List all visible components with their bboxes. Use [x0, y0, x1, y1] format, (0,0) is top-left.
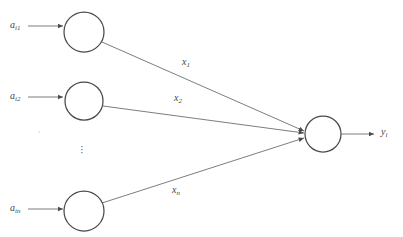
diagram-canvas [0, 0, 403, 237]
input-node-3 [64, 191, 104, 231]
weight-label-2: x2 [174, 93, 182, 103]
weight-edge-1 [102, 42, 304, 131]
weight-edge-3 [102, 138, 304, 203]
input-label-2-sub: i2 [15, 95, 20, 103]
weight-label-3: xn [172, 185, 180, 195]
output-label: yi [381, 127, 387, 137]
scan-speck [38, 131, 40, 133]
neuron-diagram: ai1 ai2 ain x1 x2 xn yi · · · [0, 0, 403, 237]
input-node-1 [64, 12, 104, 52]
output-node [305, 116, 341, 152]
weight-label-1-sub: 1 [186, 61, 190, 69]
ellipsis-dot-3: · [80, 151, 84, 154]
input-label-3-sub: in [15, 207, 20, 215]
input-label-1: ai1 [10, 20, 20, 30]
vertical-ellipsis: · · · [80, 145, 84, 154]
weight-label-1: x1 [182, 57, 190, 67]
input-label-3: ain [10, 203, 20, 213]
weight-edge-2 [103, 106, 304, 133]
weight-label-2-sub: 2 [178, 97, 182, 105]
input-label-2: ai2 [10, 91, 20, 101]
input-label-1-sub: i1 [15, 24, 20, 32]
input-node-2 [65, 82, 103, 120]
weight-label-3-sub: n [176, 189, 180, 197]
